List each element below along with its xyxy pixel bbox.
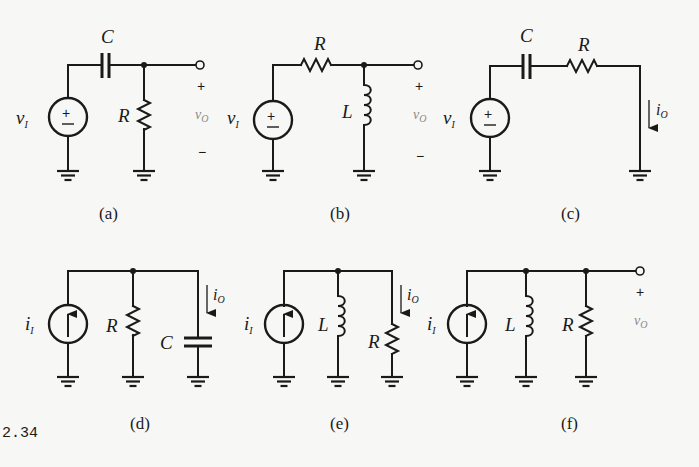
inductor-l (364, 85, 371, 125)
svg-text:+: + (484, 106, 492, 122)
plus-sign: + (636, 284, 644, 300)
svg-text:+: + (267, 108, 275, 124)
resistor-r (138, 100, 150, 130)
source-label: iI (427, 313, 436, 336)
panel-a: + C R vI + vO − (a) (16, 26, 208, 223)
resistor-r (580, 306, 592, 336)
label-r: R (577, 34, 590, 55)
label-r: R (105, 315, 118, 336)
resistor-r (127, 306, 139, 336)
source-label: iI (25, 313, 34, 336)
caption-e: (e) (330, 414, 349, 433)
inductor-l (338, 296, 345, 336)
svg-text:+: + (62, 105, 70, 121)
source-label: iI (244, 313, 253, 336)
output-terminal (636, 267, 644, 275)
label-r: R (367, 331, 380, 352)
resistor-r (567, 60, 597, 72)
panel-f: iI L R + vO (f) (427, 267, 647, 433)
label-l: L (341, 101, 353, 122)
caption-a: (a) (99, 204, 118, 223)
source-label: vI (16, 107, 28, 130)
panel-e: iI L R iO (e) (244, 268, 419, 433)
caption-b: (b) (330, 204, 350, 223)
panel-b: + R L vI + vO − (b) (227, 33, 426, 223)
output-label: iO (656, 101, 668, 120)
output-label: vO (634, 313, 647, 330)
output-terminal (414, 61, 422, 69)
output-label: iO (407, 286, 419, 305)
source-label: vI (227, 107, 239, 130)
label-c: C (101, 26, 114, 47)
inductor-l (526, 296, 533, 336)
label-c: C (160, 332, 173, 353)
output-label: iO (213, 286, 225, 305)
output-label: vO (413, 107, 426, 124)
output-label: vO (195, 107, 208, 124)
caption-f: (f) (561, 414, 578, 433)
label-c: C (520, 25, 533, 46)
resistor-r (386, 324, 398, 354)
caption-c: (c) (561, 204, 580, 223)
label-r: R (313, 33, 326, 54)
minus-sign: − (198, 144, 206, 160)
label-l: L (317, 314, 329, 335)
circuit-figure: + C R vI + vO − (a) + R L vI + (0, 0, 699, 467)
label-l: L (504, 314, 516, 335)
plus-sign: + (415, 78, 423, 94)
panel-c: + C R vI iO (c) (443, 25, 668, 223)
panel-d: iI R C iO (d) (25, 268, 225, 433)
resistor-r (301, 59, 331, 71)
caption-d: (d) (130, 414, 150, 433)
label-r: R (561, 314, 574, 335)
output-terminal (196, 61, 204, 69)
minus-sign: − (416, 148, 424, 164)
label-r: R (117, 105, 130, 126)
figure-number: 2.34 (2, 425, 38, 442)
plus-sign: + (197, 78, 205, 94)
source-label: vI (443, 107, 455, 130)
